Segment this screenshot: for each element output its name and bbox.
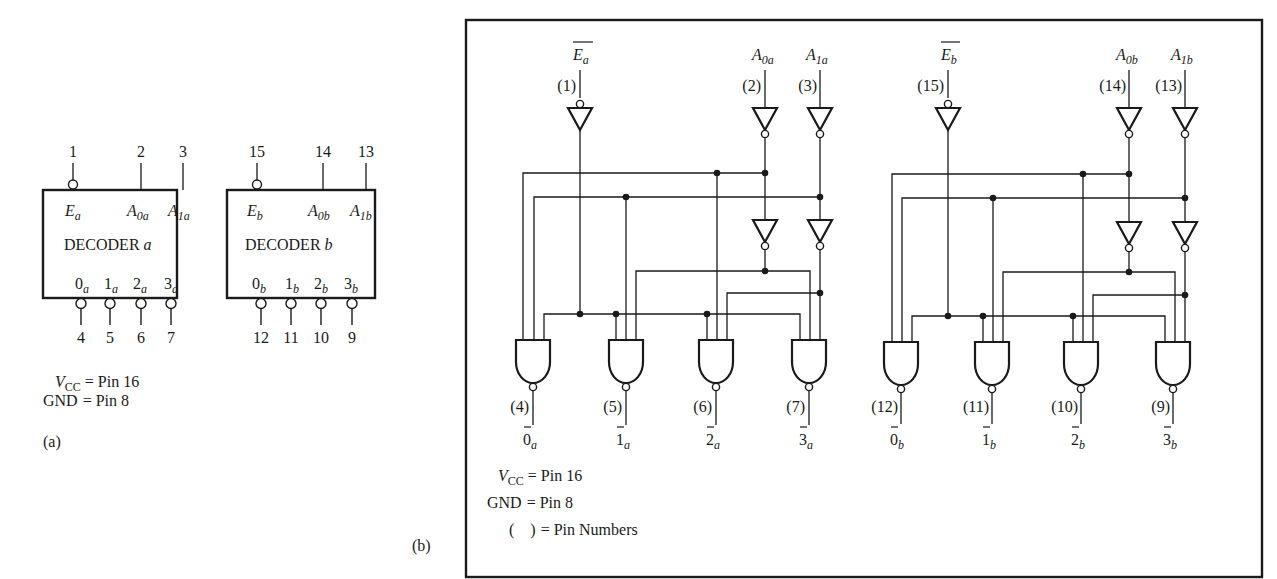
panel-b-frame xyxy=(466,20,1262,577)
a1a-inverter xyxy=(808,108,832,138)
pin-7-label: 7 xyxy=(167,329,175,346)
a0a-second-inverter xyxy=(753,220,777,250)
pin-2-label: 2 xyxy=(137,143,145,160)
pin-13-label: 13 xyxy=(358,143,374,160)
pin-4-label: 4 xyxy=(77,329,85,346)
pin-5-paren: (5) xyxy=(603,398,622,416)
pin-7-paren: (7) xyxy=(786,398,805,416)
pin-15-label: 15 xyxy=(249,143,265,160)
gnd-note-a: GND= Pin 8 xyxy=(43,392,129,409)
pin-6-paren: (6) xyxy=(693,398,712,416)
pin-1-paren: (1) xyxy=(557,77,576,95)
pin-11-label: 11 xyxy=(283,329,298,346)
pin-9-label: 9 xyxy=(348,329,356,346)
pin-3-paren: (3) xyxy=(798,77,817,95)
pin-3-label: 3 xyxy=(179,143,187,160)
section-b-junctions xyxy=(945,171,1189,320)
output-0b-bar: 0b xyxy=(890,431,904,452)
output-0a-bar: 0a xyxy=(523,431,537,452)
pin-4-paren: (4) xyxy=(510,398,529,416)
panel-b-notes: VCC= Pin 16 GND= Pin 8 ( )= Pin Numbers xyxy=(487,467,638,539)
nand-gate-2b xyxy=(1064,342,1098,393)
decoder-a-title: DECODERa xyxy=(64,236,152,253)
a0a-inverter xyxy=(753,108,777,138)
panel-b: (b) Ea A0a A1a (1) (2) (3) xyxy=(412,20,1262,577)
pin-11-paren: (11) xyxy=(963,398,989,416)
pin-6-label: 6 xyxy=(137,329,145,346)
panel-a-notes: VCC= Pin 16 GND= Pin 8 (a) xyxy=(43,373,139,451)
pin-1-label: 1 xyxy=(69,143,77,160)
output-1b-bar: 1b xyxy=(982,431,996,452)
panel-a: 1 2 3 Ea A0a A1a DECODERa 0a 1a 2a 3a xyxy=(43,143,375,451)
section-a-wires xyxy=(523,130,820,340)
a0a-header-label: A0a xyxy=(751,46,774,67)
output-2b-bar: 2b xyxy=(1071,431,1085,452)
pin-5-label: 5 xyxy=(106,329,114,346)
a1a-header-label: A1a xyxy=(805,46,828,67)
output-3b-bar: 3b xyxy=(1163,431,1177,452)
panel-a-label: (a) xyxy=(43,433,61,451)
pin-2-paren: (2) xyxy=(742,77,761,95)
vcc-note-a: VCC= Pin 16 xyxy=(55,373,139,394)
section-a-junctions xyxy=(577,170,824,318)
nand-gate-2a xyxy=(699,340,733,391)
pin-13-paren: (13) xyxy=(1155,77,1182,95)
a1b-second-inverter xyxy=(1173,222,1197,252)
nand-gate-1a xyxy=(609,340,643,391)
pin-14-label: 14 xyxy=(315,143,331,160)
a0b-inverter xyxy=(1117,108,1141,138)
enable-a-buffer xyxy=(568,100,592,130)
section-b-wires xyxy=(892,130,1185,342)
enable-a-bar-label: Ea xyxy=(572,46,589,67)
nand-gate-3a xyxy=(792,340,826,391)
pin-numbers-note: ( )= Pin Numbers xyxy=(509,521,638,539)
decoder-b-logic: Eb A0b A1b (15) (14) (13) xyxy=(871,42,1197,452)
pin-10-paren: (10) xyxy=(1051,398,1078,416)
nand-gate-1b xyxy=(975,342,1009,393)
vcc-note-b: VCC= Pin 16 xyxy=(498,467,582,488)
pin-12-label: 12 xyxy=(253,329,269,346)
enable-b-buffer xyxy=(936,100,960,130)
nand-gate-0b xyxy=(884,342,918,393)
nand-gate-3b xyxy=(1156,342,1190,393)
output-1a-bar: 1a xyxy=(616,431,630,452)
decoder-b-block: 15 14 13 Eb A0b A1b DECODERb 0b 1b 2b 3b… xyxy=(227,143,375,346)
output-3a-bar: 3a xyxy=(799,431,813,452)
nand-gate-0a xyxy=(516,340,550,391)
a0b-second-inverter xyxy=(1117,222,1141,252)
a0b-header-label: A0b xyxy=(1115,46,1138,67)
dual-decoder-figure: 1 2 3 Ea A0a A1a DECODERa 0a 1a 2a 3a xyxy=(0,0,1277,579)
decoder-b-title: DECODERb xyxy=(245,236,333,253)
pin-10-label: 10 xyxy=(313,329,329,346)
decoder-a-block: 1 2 3 Ea A0a A1a DECODERa 0a 1a 2a 3a xyxy=(43,143,190,346)
pin-9-paren: (9) xyxy=(1151,398,1170,416)
a1a-second-inverter xyxy=(808,220,832,250)
gnd-note-b: GND= Pin 8 xyxy=(487,494,573,511)
enable-b-bar-label: Eb xyxy=(940,46,957,67)
output-2a-bar: 2a xyxy=(706,431,720,452)
panel-b-label: (b) xyxy=(412,537,431,555)
pin-12-paren: (12) xyxy=(871,398,898,416)
pin-14-paren: (14) xyxy=(1099,77,1126,95)
a1b-header-label: A1b xyxy=(1170,46,1193,67)
pin-15-paren: (15) xyxy=(917,77,944,95)
a1b-inverter xyxy=(1173,108,1197,138)
decoder-a-logic: Ea A0a A1a (1) (2) (3) xyxy=(510,42,832,452)
